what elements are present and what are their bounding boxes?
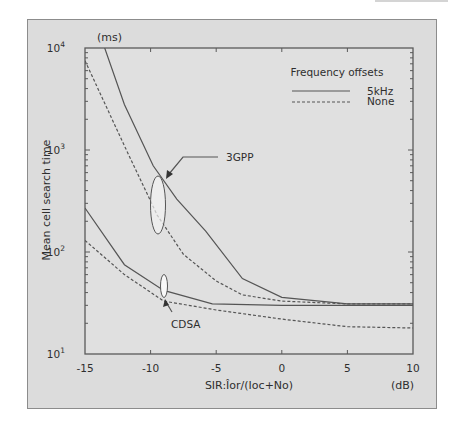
x-tick-label: -10 xyxy=(142,362,159,374)
3gpp-ellipse-marker xyxy=(151,176,166,234)
y-tick-label: 104 xyxy=(47,40,65,54)
x-unit-label: (dB) xyxy=(391,379,414,392)
cdsa-label: CDSA xyxy=(171,318,201,330)
legend-title: Frequency offsets xyxy=(291,66,384,78)
x-tick-label: 5 xyxy=(344,362,351,374)
x-axis-label: SIR:Îor/(Ioc+No) xyxy=(205,379,293,392)
x-tick-label: -15 xyxy=(76,362,93,374)
x-tick-label: 10 xyxy=(406,362,419,374)
x-tick-label: 0 xyxy=(278,362,285,374)
y-unit-label: (ms) xyxy=(97,31,122,44)
x-tick-label: -5 xyxy=(211,362,221,374)
plot-area xyxy=(85,48,413,354)
legend-entry-none: None xyxy=(367,95,394,107)
y-axis-label: Mean cell search time xyxy=(40,139,53,260)
chart: -15-10-50510101102103104 3GPPCDSA (ms) M… xyxy=(0,0,457,428)
y-tick-label: 101 xyxy=(47,346,65,360)
3gpp-label: 3GPP xyxy=(226,151,253,163)
cdsa-ellipse-marker xyxy=(161,275,168,298)
